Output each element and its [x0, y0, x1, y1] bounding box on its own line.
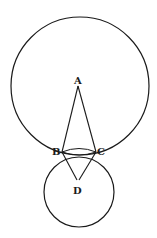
- segment-AC: [78, 86, 96, 152]
- label-D: D: [73, 185, 82, 196]
- segment-BD: [62, 152, 77, 180]
- diagram-canvas: A B C D: [0, 0, 157, 238]
- label-A: A: [73, 75, 82, 86]
- label-B: B: [52, 146, 60, 157]
- outer-circle: [11, 17, 149, 155]
- label-C: C: [97, 146, 105, 157]
- geometry-figure: A B C D: [0, 0, 157, 238]
- segment-CD: [79, 152, 96, 180]
- segment-AB: [62, 86, 78, 152]
- lens-arc-upper: [62, 149, 96, 153]
